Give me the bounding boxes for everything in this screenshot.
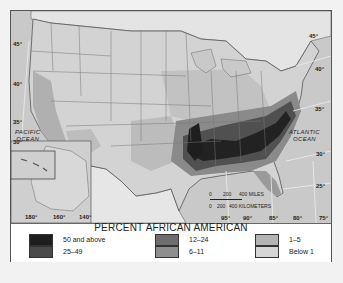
legend-label-below-1: Below 1 xyxy=(289,248,314,255)
swatch-1-5 xyxy=(255,234,279,246)
map-graphic xyxy=(11,11,331,223)
legend-label-1-5: 1–5 xyxy=(289,236,301,243)
scale-km-0: 0 xyxy=(209,203,212,209)
right-latitude-40: 40° xyxy=(315,66,324,72)
legend-label-50-and-above: 50 and above xyxy=(63,236,105,243)
choropleth-map: 45° 40° 35° 30° 45° 40° 35° 30° 25° 95° … xyxy=(11,11,331,224)
legend-label-25-49: 25–49 xyxy=(63,248,82,255)
alaska-longitude-160: 160° xyxy=(53,214,65,220)
longitude-85: 85° xyxy=(269,215,278,221)
scale-km-400: 400 KILOMETERS xyxy=(229,203,271,209)
longitude-80: 80° xyxy=(293,215,302,221)
swatch-12-24 xyxy=(155,234,179,246)
scale-miles-200: 200 xyxy=(223,191,231,197)
alaska-longitude-180: 180° xyxy=(25,214,37,220)
right-latitude-30: 30° xyxy=(316,151,325,157)
pacific-ocean-label: PACIFIC OCEAN xyxy=(15,129,40,143)
swatch-25-49 xyxy=(29,246,53,258)
longitude-75: 75° xyxy=(319,215,328,221)
legend-label-12-24: 12–24 xyxy=(189,236,208,243)
atlantic-ocean-label: ATLANTIC OCEAN xyxy=(289,129,320,143)
swatch-50-and-above xyxy=(29,234,53,246)
swatch-6-11 xyxy=(155,246,179,258)
right-latitude-45: 45° xyxy=(309,33,318,39)
latitude-label-35: 35° xyxy=(13,119,22,125)
longitude-95: 95° xyxy=(221,215,230,221)
scale-bar: 0 200 400 MILES 0 200 400 KILOMETERS xyxy=(209,191,279,213)
scale-line xyxy=(210,199,242,202)
scale-miles-0: 0 xyxy=(209,191,212,197)
latitude-label-45: 45° xyxy=(13,41,22,47)
figure-frame: 45° 40° 35° 30° 45° 40° 35° 30° 25° 95° … xyxy=(10,10,332,262)
scale-miles-400: 400 MILES xyxy=(239,191,264,197)
latitude-label-40: 40° xyxy=(13,81,22,87)
right-latitude-25: 25° xyxy=(316,183,325,189)
alaska-longitude-140: 140° xyxy=(79,214,91,220)
right-latitude-35: 35° xyxy=(315,106,324,112)
scale-km-200: 200 xyxy=(217,203,225,209)
legend-title: PERCENT AFRICAN AMERICAN xyxy=(11,222,331,233)
legend: PERCENT AFRICAN AMERICAN 50 and above 25… xyxy=(11,224,331,262)
longitude-90: 90° xyxy=(243,215,252,221)
legend-label-6-11: 6–11 xyxy=(189,248,204,255)
swatch-below-1 xyxy=(255,246,279,258)
